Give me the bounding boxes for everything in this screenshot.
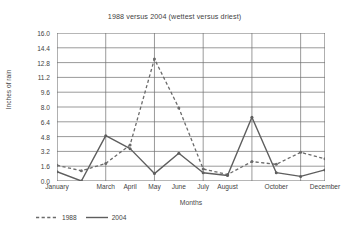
data-point (299, 151, 302, 154)
y-axis-tick-label: 1.6 (41, 163, 50, 170)
y-axis-tick-labels: 16.014.412.811.29.68.06.44.83.21.60.0 (0, 33, 53, 181)
x-axis-tick-labels: JanuaryMarchAprilMayJuneJulyAugustOctobe… (57, 183, 325, 197)
data-point (275, 163, 278, 166)
y-axis-tick-label: 9.6 (41, 89, 50, 96)
data-point (104, 134, 107, 137)
chart-series-layer (57, 33, 325, 181)
y-axis-tick-label: 16.0 (37, 30, 50, 37)
data-point (129, 143, 132, 146)
legend-item-1988: 1988 (36, 214, 77, 221)
chart-title: 1988 versus 2004 (wettest versus driest) (0, 12, 349, 21)
data-point (202, 171, 205, 174)
data-point (299, 175, 302, 178)
y-axis-tick-label: 8.0 (41, 104, 50, 111)
x-axis-tick-label: May (148, 183, 160, 190)
data-point (153, 57, 156, 60)
series-line-2004 (57, 117, 325, 181)
data-point (324, 157, 326, 160)
data-point (226, 174, 229, 177)
data-point (202, 167, 205, 170)
y-axis-tick-label: 14.4 (37, 44, 50, 51)
legend-swatch-solid (86, 214, 108, 221)
data-point (177, 152, 180, 155)
legend-label: 2004 (112, 214, 127, 221)
y-axis-tick-label: 4.8 (41, 133, 50, 140)
y-axis-tick-label: 11.2 (38, 74, 50, 81)
y-axis-tick-label: 3.2 (41, 148, 50, 155)
data-point (129, 147, 132, 150)
data-point (177, 106, 180, 109)
rainfall-line-chart: 1988 versus 2004 (wettest versus driest)… (0, 0, 349, 233)
y-axis-tick-label: 12.8 (37, 59, 50, 66)
x-axis-tick-label: August (217, 183, 238, 190)
data-point (153, 172, 156, 175)
series-line-1988 (57, 59, 325, 175)
x-axis-tick-label: March (97, 183, 115, 190)
chart-legend: 19882004 (36, 214, 126, 221)
data-point (104, 162, 107, 165)
x-axis-title: Months (57, 199, 325, 206)
data-point (250, 116, 253, 119)
legend-item-2004: 2004 (86, 214, 127, 221)
x-axis-tick-label: January (45, 183, 68, 190)
legend-label: 1988 (62, 214, 77, 221)
data-point (250, 160, 253, 163)
data-point (57, 164, 59, 167)
x-axis-tick-label: July (197, 183, 209, 190)
y-axis-tick-label: 6.4 (41, 118, 50, 125)
x-axis-tick-label: December (310, 183, 340, 190)
x-axis-tick-label: June (172, 183, 186, 190)
x-axis-tick-label: April (123, 183, 136, 190)
data-point (80, 169, 83, 172)
legend-swatch-dashed (36, 214, 58, 221)
data-point (275, 171, 278, 174)
plot-area (57, 33, 325, 181)
x-axis-tick-label: October (265, 183, 288, 190)
